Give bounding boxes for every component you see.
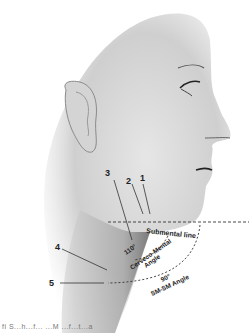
label-1: 1 — [140, 173, 145, 183]
neck-anatomy-diagram: 1 2 3 4 5 Submental line 110° Cerveco-Me… — [0, 0, 249, 333]
label-3: 3 — [105, 168, 110, 178]
caption-fragment: fi S...h...f... ...M ...f...t...a — [2, 323, 93, 330]
label-5: 5 — [49, 278, 54, 288]
submental-line-label: Submental line — [146, 227, 196, 239]
label-4: 4 — [55, 242, 60, 252]
label-2: 2 — [126, 176, 131, 186]
